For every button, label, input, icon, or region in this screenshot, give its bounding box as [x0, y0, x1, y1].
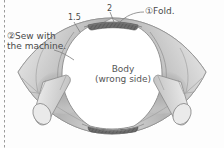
- annotation-fold-label: ①Fold.: [145, 6, 175, 16]
- annotation-sew-line2: the machine.: [7, 41, 66, 51]
- body-piece-line1: Body: [112, 64, 135, 74]
- body-piece-label: Body (wrong side): [95, 64, 151, 85]
- measurement-1-5-label: 1.5: [68, 13, 81, 22]
- measurement-2-label: 2: [107, 4, 112, 13]
- figure-canvas: ①Fold. ②Sew with the machine. Body (wron…: [0, 0, 224, 148]
- annotation-sew-label: ②Sew with the machine.: [7, 31, 66, 52]
- body-piece-line2: (wrong side): [95, 74, 151, 84]
- annotation-sew-line1: ②Sew with: [7, 31, 56, 41]
